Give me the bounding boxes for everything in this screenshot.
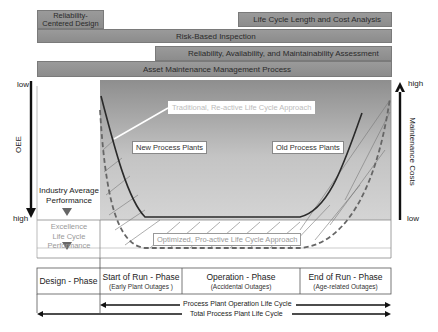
traditional-approach-label: Traditional, Re-active Life Cycle Approa… bbox=[168, 101, 315, 114]
industry-average-marker bbox=[62, 208, 72, 216]
total-lifecycle-label: Total Process Plant Life Cycle bbox=[190, 310, 283, 317]
cost-high-label: high bbox=[408, 79, 423, 88]
cost-low-label: low bbox=[407, 214, 419, 223]
industry-average-label: Industry Average Performance bbox=[38, 186, 100, 206]
phase-end-of-run: End of Run - Phase (Age-related Outages) bbox=[300, 272, 391, 292]
phase-start-of-run: Start of Run - Phase (Early Plant Outage… bbox=[100, 272, 182, 292]
oee-low-label: low bbox=[17, 80, 29, 89]
optimized-approach-label: Optimized, Pro-active Life Cycle Approac… bbox=[153, 233, 301, 246]
oee-high-label: high bbox=[13, 214, 28, 223]
old-plants-label: Old Process Plants bbox=[272, 141, 344, 154]
phase-operation: Operation - Phase (Accidental Outages) bbox=[182, 272, 300, 292]
operation-lifecycle-label: Process Plant Operation Life Cycle bbox=[183, 300, 292, 307]
phase-design: Design - Phase bbox=[37, 276, 100, 286]
excellence-label: Excellence Life Cycle Performance bbox=[38, 222, 100, 251]
new-plants-label: New Process Plants bbox=[132, 141, 207, 154]
oee-axis-label: OEE bbox=[14, 136, 23, 153]
cost-axis-label: Maintenance Costs bbox=[408, 117, 417, 185]
